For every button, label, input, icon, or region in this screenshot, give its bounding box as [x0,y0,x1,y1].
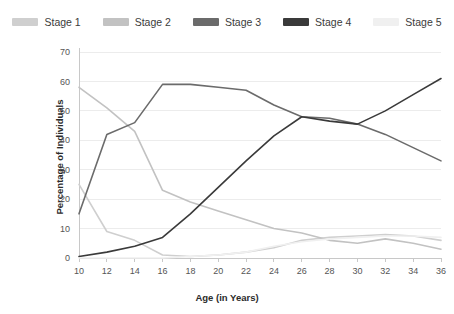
x-tick-labels-group: 1012141618202224262830323436 [74,266,446,276]
y-tick-labels-group: 010203040506070 [60,47,70,263]
x-tick-label: 10 [74,266,84,276]
x-tick-label: 28 [325,266,335,276]
y-tick-label: 60 [60,77,70,87]
x-tick-label: 20 [213,266,223,276]
plot-svg: 010203040506070 101214161820222426283032… [0,0,454,314]
x-tick-label: 14 [130,266,140,276]
y-tick-label: 20 [60,194,70,204]
x-tick-label: 26 [297,266,307,276]
x-tick-label: 32 [380,266,390,276]
x-tick-label: 36 [436,266,446,276]
y-tick-label: 30 [60,165,70,175]
series-group [79,78,441,258]
y-tick-label: 40 [60,135,70,145]
y-tick-label: 50 [60,106,70,116]
y-tick-label: 70 [60,47,70,57]
x-tick-label: 12 [102,266,112,276]
series-line-4 [79,78,441,256]
series-line-2 [79,87,441,249]
line-chart: Stage 1Stage 2Stage 3Stage 4Stage 5 Perc… [0,0,454,314]
gridlines-group [79,48,441,262]
y-tick-label: 10 [60,224,70,234]
y-tick-label: 0 [65,253,70,263]
x-tick-label: 24 [269,266,279,276]
x-tick-label: 18 [185,266,195,276]
x-tick-label: 30 [352,266,362,276]
plot-area: 010203040506070 101214161820222426283032… [0,0,454,314]
x-tick-label: 22 [241,266,251,276]
x-tick-label: 16 [158,266,168,276]
x-tick-label: 34 [408,266,418,276]
